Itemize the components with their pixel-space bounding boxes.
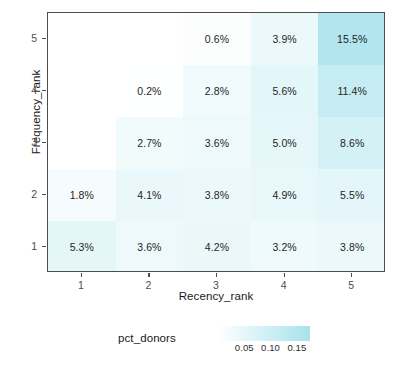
heatmap-cell-label: 4.1%	[137, 189, 161, 201]
heatmap-cell-label: 3.8%	[340, 241, 364, 253]
legend-colorbar	[218, 326, 310, 341]
heatmap-cell-label: 11.4%	[337, 85, 367, 97]
heatmap-cell-label: 3.2%	[272, 241, 296, 253]
heatmap-cell-label: 5.3%	[70, 241, 94, 253]
heatmap-cell-label: 2.7%	[137, 137, 161, 149]
heatmap-cell-label: 3.8%	[205, 189, 229, 201]
heatmap-cell	[116, 13, 184, 65]
y-tick-label: 1	[17, 240, 37, 252]
y-tick-label: 2	[17, 188, 37, 200]
heatmap-cell-label: 4.2%	[205, 241, 229, 253]
heatmap-cell-label: 8.6%	[340, 137, 364, 149]
x-tick-mark	[148, 273, 149, 277]
heatmap-cell	[48, 117, 116, 169]
y-tick-mark	[42, 246, 46, 247]
y-tick-label: 3	[17, 136, 37, 148]
legend-title: pct_donors	[118, 332, 176, 344]
heatmap-cell-label: 15.5%	[337, 33, 367, 45]
heatmap-cell	[48, 13, 116, 65]
y-tick-mark	[42, 90, 46, 91]
heatmap-cell	[48, 65, 116, 117]
heatmap-cell-label: 5.0%	[272, 137, 296, 149]
legend-tick-label: 0.15	[282, 342, 312, 353]
heatmap-cell-label: 3.6%	[205, 137, 229, 149]
x-tick-mark	[351, 273, 352, 277]
x-tick-mark	[81, 273, 82, 277]
y-tick-mark	[42, 194, 46, 195]
heatmap-cell-label: 5.6%	[272, 85, 296, 97]
heatmap-cell-label: 4.9%	[272, 189, 296, 201]
y-tick-label: 5	[17, 32, 37, 44]
heatmap-cell-label: 0.2%	[137, 85, 161, 97]
heatmap-cell-label: 2.8%	[205, 85, 229, 97]
heatmap-tiles: 0.6%3.9%15.5%0.2%2.8%5.6%11.4%2.7%3.6%5.…	[48, 13, 384, 271]
heatmap-cell-label: 3.9%	[272, 33, 296, 45]
heatmap-cell-label: 1.8%	[70, 189, 94, 201]
x-tick-mark	[284, 273, 285, 277]
y-tick-mark	[42, 142, 46, 143]
x-axis-title: Recency_rank	[47, 290, 385, 302]
heatmap-cell-label: 0.6%	[205, 33, 229, 45]
heatmap-cell-label: 5.5%	[340, 189, 364, 201]
y-axis-title: Frequency_rank	[30, 32, 42, 192]
heatmap-chart: Frequency_rank 0.6%3.9%15.5%0.2%2.8%5.6%…	[0, 0, 407, 370]
heatmap-cell-label: 3.6%	[137, 241, 161, 253]
x-tick-mark	[216, 273, 217, 277]
y-tick-label: 4	[17, 84, 37, 96]
plot-panel: 0.6%3.9%15.5%0.2%2.8%5.6%11.4%2.7%3.6%5.…	[47, 12, 385, 272]
y-tick-mark	[42, 38, 46, 39]
